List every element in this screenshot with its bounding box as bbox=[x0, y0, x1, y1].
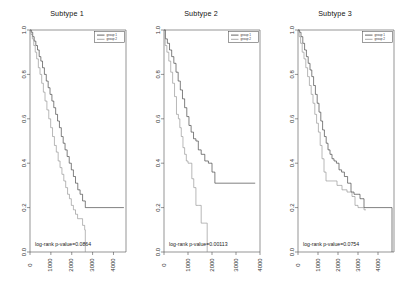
svg-text:1000: 1000 bbox=[47, 258, 53, 272]
svg-text:4000: 4000 bbox=[375, 258, 381, 272]
svg-text:0.4: 0.4 bbox=[21, 158, 27, 167]
svg-text:log-rank p-value=0.0864: log-rank p-value=0.0864 bbox=[35, 241, 91, 247]
svg-text:0.4: 0.4 bbox=[155, 158, 161, 167]
svg-text:0.2: 0.2 bbox=[289, 203, 295, 212]
plot-area-subtype-2: 0.00.20.40.60.81.001000200030004000group… bbox=[134, 0, 268, 288]
svg-text:2000: 2000 bbox=[209, 258, 215, 272]
panel-subtype-2: Subtype 2 0.00.20.40.60.81.0010002000300… bbox=[134, 0, 268, 288]
svg-text:log-rank p-value=0.0754: log-rank p-value=0.0754 bbox=[303, 241, 359, 247]
svg-text:0.6: 0.6 bbox=[289, 114, 295, 123]
plot-area-subtype-1: 0.00.20.40.60.81.001000200030004000group… bbox=[0, 0, 134, 288]
svg-text:0.6: 0.6 bbox=[21, 114, 27, 123]
svg-text:0.0: 0.0 bbox=[289, 247, 295, 256]
svg-text:0.4: 0.4 bbox=[289, 158, 295, 167]
svg-text:0.8: 0.8 bbox=[155, 70, 161, 79]
svg-text:0.8: 0.8 bbox=[21, 70, 27, 79]
svg-text:1.0: 1.0 bbox=[289, 25, 295, 34]
svg-text:1.0: 1.0 bbox=[21, 25, 27, 34]
plot-area-subtype-3: 0.00.20.40.60.81.001000200030004000group… bbox=[268, 0, 402, 288]
svg-text:0.6: 0.6 bbox=[155, 114, 161, 123]
svg-text:1000: 1000 bbox=[315, 258, 321, 272]
svg-text:0.0: 0.0 bbox=[155, 247, 161, 256]
svg-text:group 2: group 2 bbox=[375, 37, 386, 41]
survival-figure: Subtype 1 0.00.20.40.60.81.0010002000300… bbox=[0, 0, 404, 288]
svg-text:1000: 1000 bbox=[185, 258, 191, 272]
svg-text:3000: 3000 bbox=[89, 258, 95, 272]
svg-text:2000: 2000 bbox=[68, 258, 74, 272]
svg-text:0.2: 0.2 bbox=[21, 203, 27, 212]
svg-text:4000: 4000 bbox=[257, 258, 263, 272]
svg-text:3000: 3000 bbox=[233, 258, 239, 272]
panel-subtype-1: Subtype 1 0.00.20.40.60.81.0010002000300… bbox=[0, 0, 134, 288]
svg-text:0: 0 bbox=[27, 263, 33, 267]
svg-text:2000: 2000 bbox=[335, 258, 341, 272]
svg-text:group 2: group 2 bbox=[241, 37, 252, 41]
svg-text:group 2: group 2 bbox=[107, 37, 118, 41]
svg-text:log-rank p-value=0.00113: log-rank p-value=0.00113 bbox=[169, 241, 228, 247]
svg-text:0.8: 0.8 bbox=[289, 70, 295, 79]
svg-text:0: 0 bbox=[161, 263, 167, 267]
panel-subtype-3: Subtype 3 0.00.20.40.60.81.0010002000300… bbox=[268, 0, 402, 288]
svg-text:4000: 4000 bbox=[110, 258, 116, 272]
svg-text:3000: 3000 bbox=[355, 258, 361, 272]
svg-text:0.2: 0.2 bbox=[155, 203, 161, 212]
svg-text:0.0: 0.0 bbox=[21, 247, 27, 256]
svg-text:1.0: 1.0 bbox=[155, 25, 161, 34]
svg-text:0: 0 bbox=[295, 263, 301, 267]
